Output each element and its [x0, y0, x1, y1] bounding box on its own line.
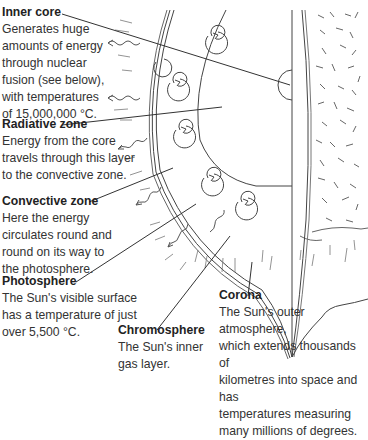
label-photosphere: Photosphere The Sun's visible surface ha… [2, 273, 137, 341]
convection-swirls [154, 25, 258, 220]
label-text: Generates huge [2, 21, 104, 38]
label-convective-zone: Convective zone Here the energy circulat… [2, 193, 112, 278]
label-title: Radiative zone [2, 116, 135, 133]
label-corona: Corona The Sun's outer atmosphere, which… [219, 287, 368, 440]
label-title: Inner core [2, 4, 104, 21]
label-text: Energy from the core [2, 133, 135, 150]
label-text: kilometres into space and has [219, 372, 368, 406]
label-text: with temperatures [2, 89, 104, 106]
label-radiative-zone: Radiative zone Energy from the core trav… [2, 116, 135, 184]
label-text: through nuclear [2, 55, 104, 72]
label-text: The Sun's outer atmosphere, [219, 304, 368, 338]
label-title: Photosphere [2, 273, 137, 290]
label-text: many millions of degrees. [219, 423, 368, 440]
label-text: over 5,500 °C. [2, 324, 137, 341]
label-text: Here the energy [2, 210, 112, 227]
label-text: amounts of energy [2, 38, 104, 55]
radiative-zone-boundary [198, 10, 292, 186]
label-text: gas layer. [118, 356, 205, 373]
surface-granulation [300, 12, 368, 241]
label-text: has a temperature of just [2, 307, 137, 324]
label-text: which extends thousands of [219, 338, 368, 372]
label-chromosphere: Chromosphere The Sun's inner gas layer. [118, 322, 205, 373]
label-title: Convective zone [2, 193, 112, 210]
label-inner-core: Inner core Generates huge amounts of ene… [2, 4, 104, 123]
label-text: fusion (see below), [2, 72, 104, 89]
label-text: The Sun's visible surface [2, 290, 137, 307]
label-text: temperatures measuring [219, 406, 368, 423]
label-text: travels through this layer [2, 150, 135, 167]
label-text: to the convective zone. [2, 167, 135, 184]
label-text: The Sun's inner [118, 339, 205, 356]
label-title: Corona [219, 287, 368, 304]
label-title: Chromosphere [118, 322, 205, 339]
label-text: circulates round and [2, 227, 112, 244]
label-text: round on its way to [2, 244, 112, 261]
